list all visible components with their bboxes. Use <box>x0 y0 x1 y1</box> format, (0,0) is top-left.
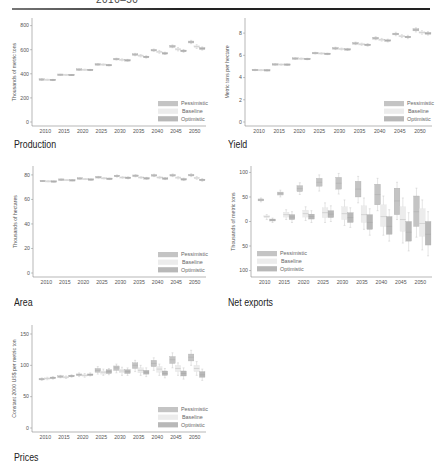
legend-label-pessimistic: Pessimistic <box>181 406 208 412</box>
box-optimistic <box>347 208 353 228</box>
box-baseline <box>119 367 124 375</box>
legend-label-optimistic: Optimistic <box>181 422 205 428</box>
x-tick-label: 2010 <box>259 279 271 285</box>
box-pessimistic <box>394 182 400 219</box>
y-tick-label: 50 <box>242 243 248 249</box>
x-tick-label: 2030 <box>337 279 349 285</box>
box-baseline <box>400 198 406 243</box>
box-baseline <box>361 198 367 229</box>
legend-swatch-pessimistic <box>158 407 178 412</box>
x-tick-label: 2030 <box>114 434 126 440</box>
x-tick-label: 2040 <box>152 434 164 440</box>
box-optimistic <box>406 213 412 251</box>
y-tick-label: 100 <box>239 267 248 273</box>
box-baseline <box>63 376 68 379</box>
box-pessimistic <box>39 378 44 381</box>
x-tick-label: 2015 <box>278 279 290 285</box>
box-baseline <box>194 362 199 376</box>
box-optimistic <box>199 369 204 380</box>
box-optimistic <box>143 368 148 377</box>
box-pessimistic <box>414 188 420 237</box>
y-tick-label: 0 <box>245 218 248 224</box>
box-optimistic <box>289 212 295 223</box>
box-baseline <box>157 364 162 375</box>
box-optimistic <box>125 368 130 376</box>
box-optimistic <box>106 368 111 374</box>
box-baseline <box>175 363 180 376</box>
legend-label-baseline: Baseline <box>182 414 203 420</box>
y-axis-label: Thousands of metric tons <box>230 192 236 251</box>
legend-label-pessimistic: Pessimistic <box>280 250 307 256</box>
box-pessimistic <box>188 350 193 365</box>
x-tick-label: 2020 <box>77 434 89 440</box>
box-optimistic <box>69 375 74 378</box>
box-optimistic <box>367 209 373 235</box>
box-baseline <box>322 203 328 223</box>
box-baseline <box>264 215 270 220</box>
box-pessimistic <box>297 183 303 195</box>
box-pessimistic <box>375 178 381 210</box>
x-tick-label: 2025 <box>317 279 329 285</box>
box-optimistic <box>328 206 334 222</box>
x-tick-label: 2035 <box>356 279 368 285</box>
y-tick-label: 150 <box>20 331 29 337</box>
legend-swatch-pessimistic <box>257 251 277 256</box>
box-pessimistic <box>336 173 342 194</box>
box-pessimistic <box>355 176 361 202</box>
y-axis-label: Constant 2000 US$ per metric ton <box>11 339 17 418</box>
x-tick-label: 2040 <box>376 279 388 285</box>
x-tick-label: 2045 <box>395 279 407 285</box>
box-pessimistic <box>151 358 156 371</box>
box-baseline <box>283 210 289 220</box>
box-optimistic <box>162 368 167 377</box>
box-baseline <box>381 196 387 235</box>
box-pessimistic <box>316 175 322 191</box>
x-tick-label: 2010 <box>40 434 52 440</box>
box-baseline <box>419 200 425 250</box>
chart-title-prices: Prices <box>14 452 38 463</box>
x-tick-label: 2015 <box>58 434 70 440</box>
box-optimistic <box>181 368 186 379</box>
box-pessimistic <box>170 353 175 368</box>
box-baseline <box>342 200 348 226</box>
legend: PessimisticBaselineOptimistic <box>257 250 307 271</box>
box-baseline <box>303 207 309 221</box>
box-pessimistic <box>58 375 63 378</box>
x-tick-label: 2025 <box>96 434 108 440</box>
legend-swatch-baseline <box>158 415 178 420</box>
box-pessimistic <box>132 360 137 371</box>
box-optimistic <box>50 377 55 380</box>
x-tick-label: 2050 <box>189 434 201 440</box>
box-pessimistic <box>114 364 119 373</box>
box-baseline <box>45 377 50 380</box>
y-tick-label: 50 <box>242 194 248 200</box>
legend-label-baseline: Baseline <box>281 258 302 264</box>
chart-svg: 050100150Constant 2000 US$ per metric to… <box>0 0 219 460</box>
chart-title-net-exports: Net exports <box>228 297 273 308</box>
box-optimistic <box>87 373 92 376</box>
y-tick-label: 100 <box>20 362 29 368</box>
box-pessimistic <box>277 190 283 197</box>
legend-label-optimistic: Optimistic <box>280 266 304 272</box>
chart-prices: 050100150Constant 2000 US$ per metric to… <box>0 0 219 460</box>
legend-swatch-optimistic <box>257 266 277 271</box>
box-optimistic <box>425 212 431 256</box>
legend: PessimisticBaselineOptimistic <box>158 406 208 427</box>
y-tick-label: 50 <box>23 393 29 399</box>
box-optimistic <box>386 210 392 241</box>
y-tick-label: 0 <box>26 425 29 431</box>
box-pessimistic <box>95 367 100 375</box>
legend-swatch-baseline <box>257 259 277 264</box>
box-baseline <box>138 365 143 375</box>
box-pessimistic <box>258 198 264 202</box>
x-tick-label: 2020 <box>298 279 310 285</box>
box-optimistic <box>309 211 315 223</box>
box-pessimistic <box>76 373 81 377</box>
x-tick-label: 2045 <box>170 434 182 440</box>
y-tick-label: 100 <box>239 169 248 175</box>
legend-swatch-optimistic <box>158 422 178 427</box>
x-tick-label: 2035 <box>133 434 145 440</box>
x-tick-label: 2050 <box>415 279 427 285</box>
box-baseline <box>82 373 87 377</box>
box-optimistic <box>270 218 276 222</box>
